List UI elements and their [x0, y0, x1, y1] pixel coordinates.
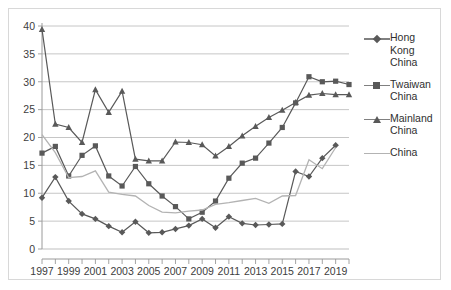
square-marker-icon — [364, 79, 390, 92]
x-axis-tick-label: 2015 — [271, 265, 295, 277]
legend-label: Mainland China — [390, 112, 442, 137]
x-axis-tick-label: 2003 — [110, 265, 134, 277]
x-axis-tick-label: 2019 — [324, 265, 348, 277]
legend-label: China — [390, 146, 442, 159]
legend-item-twaiwan-china[interactable]: Twaiwan China — [364, 78, 444, 103]
triangle-marker-icon — [364, 113, 390, 126]
x-axis-tick-label: 2001 — [84, 265, 108, 277]
legend-item-hong-kong-china[interactable]: Hong Kong China — [364, 31, 444, 69]
series-china — [42, 135, 336, 213]
line-marker-icon — [364, 147, 390, 160]
y-axis-tick-label: 35 — [23, 48, 35, 60]
y-axis-tick-label: 15 — [23, 159, 35, 171]
legend-label: Twaiwan China — [390, 78, 442, 103]
legend-item-china[interactable]: China — [364, 146, 444, 160]
legend-item-mainland-china[interactable]: Mainland China — [364, 112, 444, 137]
x-axis-tick-label: 1999 — [57, 265, 81, 277]
x-axis-tick-label: 2011 — [218, 265, 241, 277]
x-axis-tick-label: 1997 — [30, 265, 54, 277]
x-axis-tick-label: 2017 — [297, 265, 321, 277]
series-mainland-china — [39, 26, 352, 164]
chart-container: 0510152025303540199719992001200320052007… — [8, 8, 441, 280]
x-axis-tick-label: 2009 — [190, 265, 214, 277]
x-axis-tick-label: 2013 — [244, 265, 268, 277]
series-twaiwan-china — [39, 74, 351, 221]
y-axis-tick-label: 20 — [23, 131, 35, 143]
legend-label: Hong Kong China — [390, 31, 442, 69]
diamond-marker-icon — [364, 32, 390, 45]
y-axis-tick-label: 30 — [23, 76, 35, 88]
y-axis-tick-label: 0 — [29, 243, 35, 255]
y-axis-tick-label: 10 — [23, 187, 35, 199]
y-axis-tick-label: 40 — [23, 20, 35, 32]
y-axis-tick-label: 5 — [29, 215, 35, 227]
chart-legend: Hong Kong China Twaiwan China Mainland C… — [364, 31, 444, 169]
x-axis-tick-label: 2005 — [137, 265, 161, 277]
y-axis-tick-label: 25 — [23, 103, 35, 115]
x-axis-tick-label: 2007 — [164, 265, 188, 277]
